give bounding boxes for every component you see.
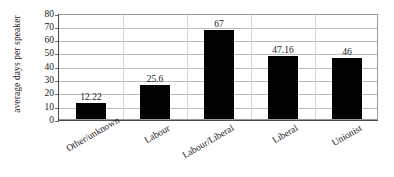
bar-slot: 12.22 (59, 15, 123, 120)
x-axis-category-label: Other/unknown (64, 122, 108, 154)
y-axis-tick-label: 60 (26, 35, 54, 45)
bar[interactable] (268, 56, 298, 119)
y-axis-tick-label: 0 (26, 115, 54, 125)
bar-slot: 47.16 (251, 15, 315, 120)
y-axis-tick-label: 10 (26, 102, 54, 112)
y-axis-line (58, 14, 59, 121)
y-axis-tick-label: 70 (26, 22, 54, 32)
bar[interactable] (140, 85, 170, 119)
bar-value-label: 47.16 (272, 45, 293, 56)
y-axis-tick-label: 30 (26, 75, 54, 85)
bar-slot: 46 (315, 15, 379, 120)
y-axis-tick-label: 40 (26, 62, 54, 72)
bar-chart: average days per speaker 010203040506070… (0, 0, 394, 177)
bar-value-label: 12.22 (80, 92, 101, 103)
bar-slot: 67 (187, 15, 251, 120)
x-axis-category-labels: Other/unknownLabourLabour/LiberalLiberal… (58, 122, 378, 177)
y-axis-title: average days per speaker (9, 2, 25, 126)
bar[interactable] (332, 58, 362, 119)
bar[interactable] (76, 103, 106, 119)
y-axis-tick-label: 50 (26, 48, 54, 58)
y-axis-tick-label: 20 (26, 88, 54, 98)
y-axis-tick-labels: 01020304050607080 (26, 8, 54, 126)
bar-slot: 25.6 (123, 15, 187, 120)
bar-value-label: 46 (342, 47, 352, 58)
bar-value-label: 25.6 (147, 74, 164, 85)
plot-area: 12.2225.66747.1646 (58, 14, 378, 121)
bar[interactable] (204, 30, 234, 119)
y-axis-tick-label: 80 (26, 9, 54, 19)
bar-value-label: 67 (214, 19, 224, 30)
